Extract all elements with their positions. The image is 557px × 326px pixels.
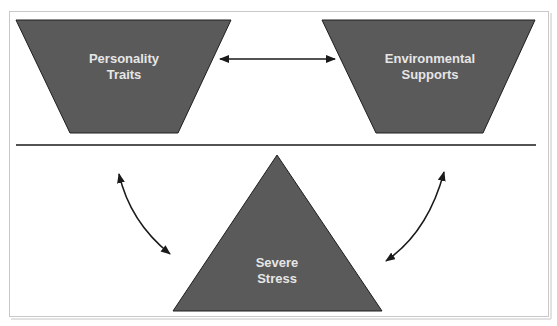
- severe-stress-line2: Stress: [197, 271, 357, 287]
- environmental-supports-line2: Supports: [350, 67, 510, 83]
- severe-stress-line1: Severe: [197, 255, 357, 271]
- personality-traits-line2: Traits: [44, 67, 204, 83]
- personality-traits-line1: Personality: [44, 51, 204, 67]
- severe-stress-label: Severe Stress: [197, 255, 357, 287]
- personality-traits-label: Personality Traits: [44, 51, 204, 83]
- environmental-supports-line1: Environmental: [350, 51, 510, 67]
- environmental-supports-label: Environmental Supports: [350, 51, 510, 83]
